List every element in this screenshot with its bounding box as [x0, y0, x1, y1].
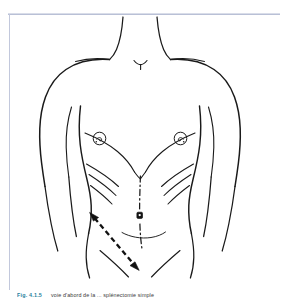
lower-abdomen-fold: [122, 232, 166, 238]
neck-outline: [110, 17, 171, 60]
inner-arm-left: [66, 107, 71, 177]
costal-margin-right: [162, 164, 194, 204]
torso-side-left: [79, 106, 91, 234]
nipple-right: [174, 132, 187, 145]
torso-side-right: [189, 106, 201, 234]
shoulder-arm-left: [40, 59, 110, 186]
subcostal-incision-arrow: [90, 212, 140, 270]
forearm-right: [204, 177, 235, 251]
figure-number: Fig. 4.1.5: [17, 292, 42, 298]
hip-contour-right: [190, 234, 193, 279]
hip-contour-left: [86, 234, 89, 279]
anatomical-figure: [10, 16, 278, 284]
figure-caption: Fig. 4.1.5voie d'abord de la ... splénec…: [17, 292, 275, 298]
pectoral-fold-right: [146, 133, 196, 172]
nipple-left: [93, 132, 106, 145]
inguinal-crease-right: [152, 251, 181, 278]
forearm-left: [45, 177, 76, 251]
incision-arrowhead-distal: [130, 262, 139, 271]
costal-margin-left: [87, 164, 119, 204]
inner-arm-right: [209, 107, 214, 177]
figure-page: Fig. 4.1.5voie d'abord de la ... splénec…: [0, 0, 285, 303]
pectoral-fold-left: [85, 133, 135, 172]
page-frame-top-rule: [8, 14, 280, 15]
sternal-notch: [134, 61, 147, 70]
shoulder-arm-right: [171, 59, 241, 186]
figure-caption-text: voie d'abord de la ... splénectomie simp…: [51, 292, 154, 298]
torso-illustration: [10, 16, 278, 284]
umbilicus: [137, 212, 143, 218]
